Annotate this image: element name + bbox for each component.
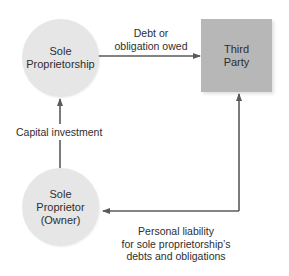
liability-label-line1: Personal liability (116, 225, 236, 238)
sole-proprietorship-node: Sole Proprietorship (22, 19, 99, 97)
third-party-node: Third Party (201, 19, 272, 92)
node-label-line2: Proprietor (36, 201, 84, 214)
node-label-line1: Sole (49, 188, 71, 201)
node-label-line1: Sole (49, 45, 71, 58)
node-label-line2: Proprietorship (26, 58, 94, 71)
debt-label: Debt or obligation owed (108, 27, 194, 52)
liability-label-line3: debts and obligations (116, 250, 236, 263)
capital-investment-text: Capital investment (16, 126, 102, 138)
debt-label-line1: Debt or (108, 27, 194, 40)
personal-liability-label: Personal liability for sole proprietorsh… (116, 225, 236, 263)
node-label-line3: (Owner) (41, 214, 81, 227)
sole-proprietor-owner-node: Sole Proprietor (Owner) (22, 168, 99, 246)
node-label-line1: Third (224, 43, 249, 56)
debt-label-line2: obligation owed (108, 40, 194, 53)
node-label-line2: Party (224, 56, 250, 69)
capital-investment-label: Capital investment (16, 126, 102, 139)
liability-label-line2: for sole proprietorship’s (116, 238, 236, 251)
